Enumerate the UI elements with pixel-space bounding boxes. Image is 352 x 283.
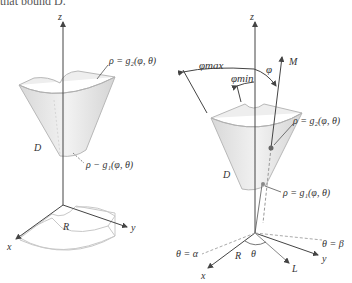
theta-beta-label: θ = β	[322, 238, 344, 249]
left-region-label: R	[62, 221, 69, 232]
left-y-label: y	[130, 222, 136, 233]
ray-l	[255, 233, 289, 263]
left-x-label: x	[6, 241, 12, 252]
right-y-label: y	[321, 253, 327, 264]
right-x-label: x	[200, 270, 206, 281]
phi-min-label: φmin	[231, 72, 254, 84]
y-axis	[63, 205, 127, 227]
right-figure: z x y φmax φmin φ M ρ = g₂(φ, θ) ρ = g₁(…	[176, 11, 344, 281]
left-outer-surface-label: ρ = g₂(φ, θ)	[108, 55, 157, 67]
right-solid-label: D	[222, 169, 231, 180]
phi-label: φ	[266, 63, 272, 75]
right-z-label: z	[249, 11, 254, 22]
left-z-label: z	[57, 11, 62, 22]
left-figure: z x y ρ = g₂(φ, θ) ρ − g₁(φ, θ) D R	[6, 11, 157, 252]
ray-m-label: M	[288, 56, 298, 67]
point-outer	[269, 146, 274, 151]
right-outer-surface-label: ρ = g₂(φ, θ)	[292, 115, 341, 127]
left-inner-surface-label: ρ − g₁(φ, θ)	[85, 159, 134, 171]
theta-label: θ	[251, 248, 256, 259]
diagram-canvas: that bound D.	[0, 0, 352, 283]
theta-alpha-label: θ = α	[176, 248, 199, 259]
phi-max-label: φmax	[199, 59, 224, 71]
point-inner	[261, 182, 265, 186]
right-region-label: R	[234, 250, 241, 261]
right-inner-surface-label: ρ = g₁(φ, θ)	[282, 187, 331, 199]
x-axis	[208, 233, 255, 268]
left-solid-label: D	[33, 142, 42, 153]
ray-l-label: L	[291, 263, 298, 274]
